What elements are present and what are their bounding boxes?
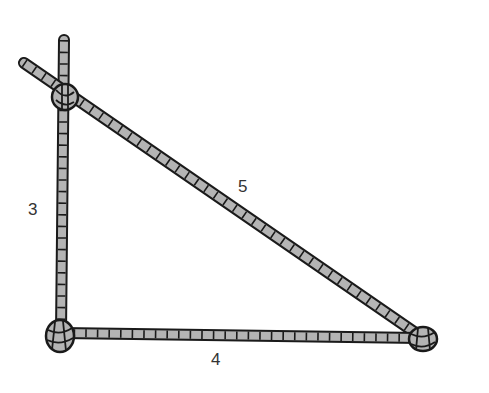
label-side-5: 5 xyxy=(238,178,247,195)
rope-side-5 xyxy=(24,63,420,336)
knot-top xyxy=(52,84,78,110)
rope-side-4 xyxy=(62,333,420,338)
label-side-3: 3 xyxy=(28,201,37,218)
knot-bottom-left xyxy=(46,320,74,352)
knot-bottom-right xyxy=(409,327,437,351)
rope-triangle-diagram xyxy=(0,0,489,393)
label-side-4: 4 xyxy=(211,351,220,368)
